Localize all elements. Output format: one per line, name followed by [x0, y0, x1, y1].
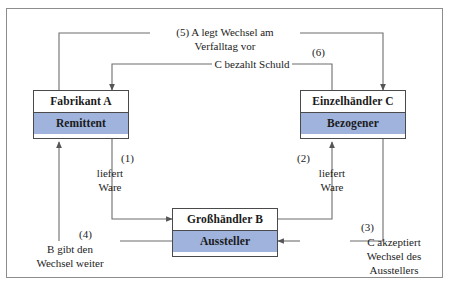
- node-a-role-label: Remittent: [34, 113, 128, 134]
- node-a-party-label: Fabrikant A: [34, 91, 128, 113]
- flow-1-label-line1: liefert: [80, 167, 140, 180]
- node-fabrikant-a[interactable]: Fabrikant A Remittent: [33, 90, 129, 139]
- node-c-role-label: Bezogener: [301, 113, 405, 134]
- flow-2-label-line2: Ware: [302, 181, 362, 194]
- node-einzelhaendler-c[interactable]: Einzelhändler C Bezogener: [300, 90, 406, 139]
- flow-2-label-line1: liefert: [302, 167, 362, 180]
- flow-1-number: (1): [121, 152, 134, 165]
- diagram-canvas: Fabrikant A Remittent Einzelhändler C Be…: [0, 0, 449, 288]
- flow-3-label-line1: C akzeptiert: [350, 236, 438, 249]
- node-b-role-label: Aussteller: [173, 231, 277, 252]
- flow-2-number: (2): [297, 152, 310, 165]
- flow-6-number: (6): [312, 46, 325, 59]
- node-b-party-label: Großhändler B: [173, 209, 277, 231]
- flow-4-label-line1: B gibt den: [20, 243, 120, 256]
- flow-5-label-line2: Verfalltag vor: [150, 40, 300, 53]
- flow-6-label: C bezahlt Schuld: [212, 58, 292, 71]
- flow-3-number: (3): [361, 221, 374, 234]
- node-grosshaendler-b[interactable]: Großhändler B Aussteller: [172, 208, 278, 257]
- flow-1-label-line2: Ware: [80, 181, 140, 194]
- flow-4-number: (4): [79, 228, 92, 241]
- flow-3-label-line2: Wechsel des: [350, 250, 438, 263]
- node-c-party-label: Einzelhändler C: [301, 91, 405, 113]
- flow-5-label-line1: (5) A legt Wechsel am: [150, 26, 300, 39]
- flow-3-label-line3: Ausstellers: [350, 264, 438, 277]
- flow-4-label-line2: Wechsel weiter: [20, 257, 120, 270]
